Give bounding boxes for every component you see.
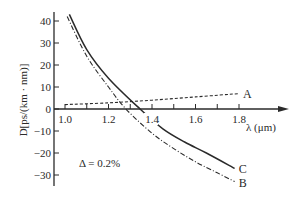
annotation-delta: Δ = 0.2% <box>79 157 120 169</box>
x-tick-label: 1.0 <box>58 113 72 125</box>
series-label-c: C <box>239 162 247 176</box>
x-axis-title: λ (μm) <box>246 121 276 134</box>
series-label-a: A <box>243 87 252 101</box>
x-tick-label: 1.4 <box>145 113 159 125</box>
y-tick-label: 40 <box>40 15 52 27</box>
y-axis-title: D[ps/(km · nm)] <box>17 64 30 137</box>
x-tick-label: 1.8 <box>232 113 246 125</box>
series-line-c <box>69 14 234 168</box>
y-tick-label: 30 <box>40 37 52 49</box>
x-tick-label: 1.2 <box>102 113 116 125</box>
y-tick-label: −20 <box>34 147 52 159</box>
y-tick-label: −30 <box>34 169 52 181</box>
y-tick-label: −10 <box>34 125 52 137</box>
x-tick-label: 1.6 <box>189 113 203 125</box>
series-label-b: B <box>239 176 247 190</box>
y-tick-label: 0 <box>46 103 52 115</box>
y-tick-label: 10 <box>40 81 52 93</box>
chart: 403020100−10−20−301.01.21.41.61.8 ABC1.4… <box>0 0 301 198</box>
y-tick-label: 20 <box>40 59 52 71</box>
series-line-a <box>65 94 239 105</box>
x-axis-arrow <box>278 106 289 112</box>
